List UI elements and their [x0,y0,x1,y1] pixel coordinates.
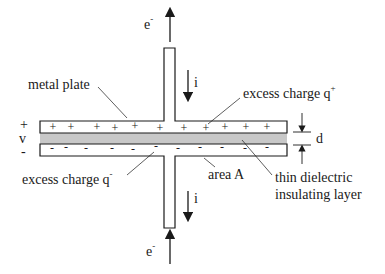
plus-sign: + [157,121,164,135]
minus-sign: - [154,139,158,153]
minus-sign: - [265,140,269,154]
voltage-plus-label: + [20,117,28,132]
separation-dimension [293,113,311,164]
voltage-minus-label: - [21,144,26,159]
minus-sign: - [220,140,224,154]
separation-label: d [316,131,323,146]
excess-neg-label: excess charge q- [22,169,113,187]
minus-sign: - [64,140,68,154]
dielectric-label-line1: thin dielectric [275,170,352,185]
leader-area [204,158,215,167]
electron-label-bottom: e- [146,241,155,259]
plus-sign: + [112,121,119,135]
capacitor-diagram: + + + + + + + + + + + - - - - - - - - - … [0,0,385,274]
metal-plate-label: metal plate [28,77,90,92]
plus-sign: + [181,121,188,135]
minus-sign: - [198,140,202,154]
electron-label-top: e- [144,14,153,32]
area-label: area A [208,167,245,182]
minus-sign: - [50,141,54,155]
excess-pos-label: excess charge q+ [243,83,336,101]
minus-sign: - [131,142,135,156]
plus-sign: + [68,120,75,134]
dielectric-layer [40,133,287,144]
leader-metal-plate [98,87,127,118]
minus-sign: - [110,141,114,155]
minus-sign: - [176,141,180,155]
plus-sign: + [243,120,250,134]
current-label-bottom: i [194,191,198,206]
plus-sign: + [222,120,229,134]
minus-sign: - [84,141,88,155]
plus-sign: + [264,120,271,134]
current-label-top: i [194,75,198,90]
dielectric-label-line2: insulating layer [275,187,362,202]
plus-sign: + [94,120,101,134]
plus-sign: + [132,119,139,133]
plus-sign: + [50,120,57,134]
